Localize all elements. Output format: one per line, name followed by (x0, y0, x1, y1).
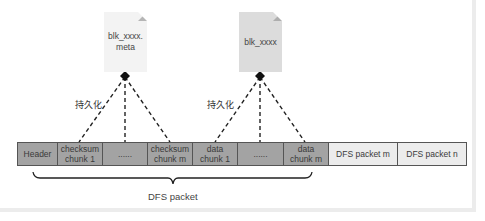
cell-checksum-chunk-m: checksum chunk m (148, 143, 193, 165)
meta-file-document: blk_xxxx. meta (104, 12, 147, 72)
cell-dfs-packet-m: DFS packet m (329, 143, 398, 165)
cell-label: data (200, 144, 230, 154)
cell-label: ...... (118, 149, 132, 159)
cell-label: checksum (61, 144, 99, 154)
packet-bar: Header checksum chunk 1 ...... checksum … (17, 142, 467, 166)
block-file-name: blk_xxxx (244, 37, 277, 48)
cell-data-chunk-1: data chunk 1 (193, 143, 238, 165)
diamond-marker-icon (255, 71, 265, 81)
dashed-connector (260, 77, 305, 142)
cell-dfs-packet-n: DFS packet n (398, 143, 466, 165)
diamond-marker-icon (120, 71, 130, 81)
block-file-document: blk_xxxx (239, 12, 282, 72)
persist-label-right: 持久化 (207, 98, 234, 111)
page-fold-cutout (138, 12, 147, 21)
cell-label: checksum (151, 144, 189, 154)
cell-sublabel: chunk 1 (200, 154, 230, 164)
cell-checksum-chunk-1: checksum chunk 1 (58, 143, 103, 165)
meta-file-name-line1: blk_xxxx. (108, 31, 143, 42)
cell-data-chunk-m: data chunk m (284, 143, 329, 165)
persist-label-left: 持久化 (75, 98, 102, 111)
cell-data-ellipsis: ...... (238, 143, 284, 165)
dashed-connector (125, 77, 170, 142)
cell-label: data (290, 144, 322, 154)
page-fold-cutout (273, 12, 282, 21)
dfs-packet-label: DFS packet (148, 191, 198, 202)
cell-label: DFS packet n (406, 149, 458, 159)
cell-sublabel: chunk m (151, 154, 189, 164)
cell-label: Header (24, 149, 52, 159)
meta-file-name-line2: meta (108, 42, 143, 53)
cell-checksum-ellipsis: ...... (103, 143, 148, 165)
cell-label: ...... (253, 149, 267, 159)
packet-brace (33, 172, 312, 184)
cell-label: DFS packet m (336, 149, 390, 159)
cell-header: Header (18, 143, 58, 165)
cell-sublabel: chunk 1 (61, 154, 99, 164)
cell-sublabel: chunk m (290, 154, 322, 164)
